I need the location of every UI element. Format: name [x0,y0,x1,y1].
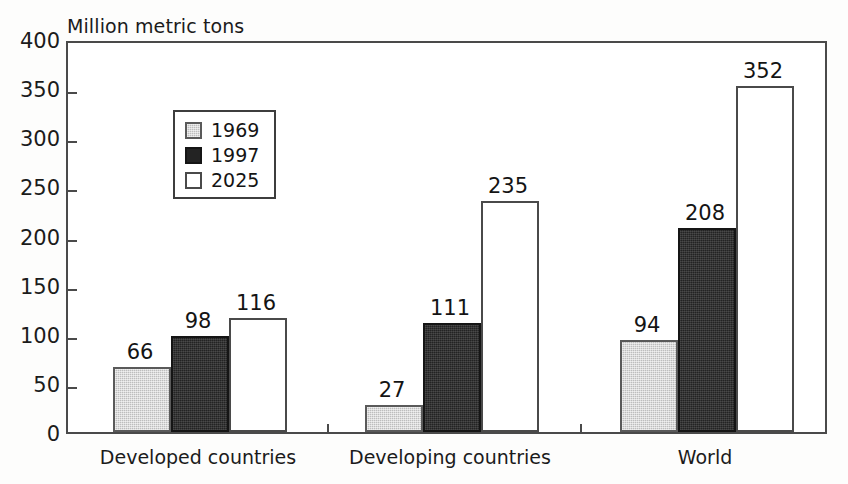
bar-developed-countries-1997 [171,336,229,432]
bar-value-label: 27 [379,378,406,402]
legend-swatch-icon [185,122,202,139]
bar-chart: Million metric tons 05010015020025030035… [0,0,848,484]
x-axis-category-label: Developed countries [100,446,296,468]
y-axis-tick-label: 0 [2,422,60,446]
y-axis-tick-mark [68,240,77,242]
bar-world-1969 [620,340,678,432]
y-axis-tick-label: 250 [2,176,60,200]
y-axis-tick-label: 100 [2,324,60,348]
y-axis-tick-label: 350 [2,78,60,102]
bar-value-label: 98 [185,309,212,333]
y-axis-tick-mark [68,92,77,94]
bar-value-label: 116 [236,291,276,315]
x-axis-category-label: World [678,446,732,468]
bar-developing-countries-1997 [423,323,481,432]
legend: 196919972025 [173,110,276,199]
x-axis-category-label: Developing countries [349,446,551,468]
bar-value-label: 66 [127,340,154,364]
y-axis-tick-mark [68,387,77,389]
legend-swatch-icon [185,147,202,164]
x-axis-tick-mark [327,424,329,432]
y-axis-tick-label: 150 [2,275,60,299]
bar-world-1997 [678,228,736,432]
bar-value-label: 208 [685,201,725,225]
legend-item-label: 1969 [211,121,259,140]
legend-item-1997: 1997 [185,143,274,168]
bar-developed-countries-2025 [229,318,287,432]
y-axis-tick-label: 400 [2,29,60,53]
legend-item-label: 2025 [211,171,259,190]
legend-item-2025: 2025 [185,168,274,193]
bar-value-label: 94 [634,313,661,337]
y-axis-tick-mark [68,190,77,192]
legend-item-label: 1997 [211,146,259,165]
y-axis-tick-mark [68,289,77,291]
bar-value-label: 352 [743,59,783,83]
bar-world-2025 [736,86,794,432]
plot-area: 196919972025 [66,41,827,434]
y-axis-tick-label: 200 [2,226,60,250]
bar-value-label: 235 [488,174,528,198]
y-axis-title: Million metric tons [67,15,244,37]
y-axis-tick-label: 300 [2,127,60,151]
x-axis-tick-mark [580,424,582,432]
y-axis-tick-labels: 050100150200250300350400 [0,0,60,484]
bar-developing-countries-1969 [365,405,423,432]
legend-swatch-icon [185,172,202,189]
legend-item-1969: 1969 [185,118,274,143]
bar-developing-countries-2025 [481,201,539,432]
y-axis-tick-mark [68,141,77,143]
y-axis-tick-label: 50 [2,373,60,397]
bar-value-label: 111 [430,296,470,320]
bar-developed-countries-1969 [113,367,171,432]
y-axis-tick-mark [68,338,77,340]
